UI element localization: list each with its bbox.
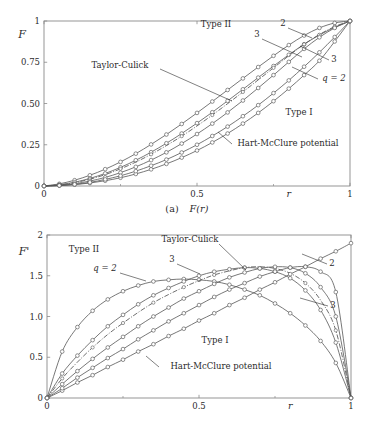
data-marker bbox=[241, 77, 245, 81]
data-marker bbox=[319, 339, 323, 343]
data-marker bbox=[149, 167, 153, 171]
data-marker bbox=[302, 65, 306, 69]
annotation-leader bbox=[292, 67, 318, 79]
data-marker bbox=[165, 158, 169, 162]
data-marker bbox=[91, 373, 95, 377]
panel-a-caption-expr: F(r) bbox=[189, 203, 208, 214]
data-marker bbox=[302, 73, 306, 77]
annotation-taylor_culick: Taylor-Culick bbox=[162, 234, 220, 244]
data-marker bbox=[319, 308, 323, 312]
panel-a: 00.5100.250.500.751FrType II23Taylor-Cul… bbox=[0, 0, 374, 225]
y-tick-label: 2 bbox=[38, 230, 43, 240]
data-marker bbox=[167, 334, 171, 338]
data-marker bbox=[91, 338, 95, 342]
data-marker bbox=[195, 111, 199, 115]
data-marker bbox=[91, 309, 95, 313]
data-marker bbox=[334, 315, 338, 319]
data-marker bbox=[241, 90, 244, 93]
annotation-q3_left: 3 bbox=[169, 254, 174, 264]
data-marker bbox=[106, 365, 110, 369]
figure-root: 00.5100.250.500.751FrType II23Taylor-Cul… bbox=[0, 0, 374, 445]
data-marker bbox=[272, 91, 276, 95]
data-marker bbox=[319, 270, 323, 274]
data-marker bbox=[73, 183, 77, 187]
annotation-leader bbox=[120, 273, 146, 281]
data-marker bbox=[318, 51, 322, 55]
annotation-q2_left: 2 bbox=[280, 18, 285, 28]
series-4 bbox=[45, 265, 353, 400]
data-marker bbox=[106, 324, 110, 328]
data-marker bbox=[243, 288, 247, 292]
data-marker bbox=[256, 65, 260, 69]
data-marker bbox=[273, 265, 277, 269]
data-marker bbox=[76, 369, 80, 373]
data-marker bbox=[167, 286, 171, 290]
data-marker bbox=[273, 280, 277, 284]
data-marker bbox=[334, 341, 338, 345]
panel-a-plot: 00.5100.250.500.751FrType II23Taylor-Cul… bbox=[0, 0, 374, 203]
annotation-leader bbox=[219, 244, 246, 270]
annotation-leader bbox=[160, 69, 232, 101]
x-axis-label: r bbox=[287, 188, 293, 199]
annotation-hart_mcclure: Hart-McClure potential bbox=[237, 138, 338, 148]
data-marker bbox=[152, 293, 156, 297]
curve-line bbox=[47, 267, 351, 398]
annotation-leader bbox=[300, 298, 328, 306]
annotation-hart_mcclure: Hart-McClure potential bbox=[170, 361, 271, 371]
y-axis-label: F bbox=[17, 28, 26, 41]
data-marker bbox=[256, 103, 260, 107]
data-marker bbox=[106, 298, 110, 302]
data-marker bbox=[226, 132, 230, 136]
data-marker bbox=[167, 306, 171, 310]
data-marker bbox=[197, 319, 201, 323]
data-marker bbox=[182, 297, 186, 301]
curves bbox=[45, 241, 353, 400]
data-marker bbox=[150, 153, 153, 156]
data-marker bbox=[60, 386, 64, 390]
data-marker bbox=[318, 59, 322, 63]
annotation-type2: Type II bbox=[201, 19, 231, 29]
annotations: Type IITaylor-Culick3q = 223Type IHart-M… bbox=[69, 234, 336, 371]
data-marker bbox=[212, 295, 216, 299]
data-marker bbox=[76, 376, 80, 380]
annotation-type1: Type I bbox=[285, 107, 312, 117]
data-marker bbox=[91, 366, 95, 370]
data-marker bbox=[333, 26, 337, 30]
data-marker bbox=[334, 361, 338, 365]
curve-line bbox=[47, 268, 351, 398]
data-marker bbox=[288, 276, 292, 280]
data-marker bbox=[76, 381, 80, 385]
data-marker bbox=[304, 324, 308, 328]
y-tick-label: 1 bbox=[35, 16, 40, 26]
data-marker bbox=[165, 150, 169, 154]
data-marker bbox=[136, 302, 140, 306]
data-marker bbox=[334, 249, 338, 253]
data-marker bbox=[197, 303, 201, 307]
data-marker bbox=[210, 100, 214, 104]
data-marker bbox=[228, 303, 232, 307]
data-marker bbox=[165, 162, 169, 166]
series-3 bbox=[47, 266, 351, 398]
data-marker bbox=[180, 156, 184, 160]
data-marker bbox=[272, 66, 275, 69]
data-marker bbox=[152, 315, 156, 319]
data-marker bbox=[288, 266, 292, 270]
data-marker bbox=[256, 86, 260, 90]
data-marker bbox=[119, 167, 122, 170]
data-marker bbox=[197, 289, 201, 293]
x-tick-label: 1 bbox=[347, 189, 352, 199]
annotation-leader bbox=[262, 39, 302, 57]
data-marker bbox=[182, 327, 186, 331]
data-marker bbox=[180, 142, 184, 146]
data-marker bbox=[243, 271, 247, 275]
data-marker bbox=[243, 296, 247, 300]
y-tick-label: 0.5 bbox=[29, 352, 43, 362]
data-marker bbox=[228, 288, 232, 292]
data-marker bbox=[121, 321, 124, 324]
data-marker bbox=[273, 270, 277, 274]
data-marker bbox=[258, 293, 262, 297]
data-marker bbox=[88, 181, 92, 185]
data-marker bbox=[149, 158, 153, 162]
annotation-type2: Type II bbox=[69, 244, 99, 254]
data-marker bbox=[272, 73, 276, 77]
